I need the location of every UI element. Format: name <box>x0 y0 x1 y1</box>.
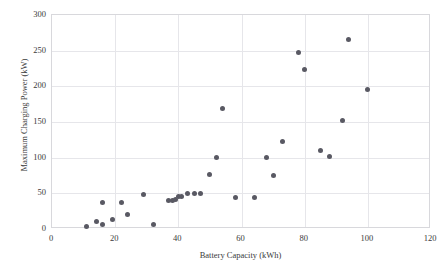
gridline-horizontal <box>52 193 429 194</box>
data-point <box>84 224 89 229</box>
x-axis-tick-labels: 020406080100120 <box>51 234 430 246</box>
data-point <box>302 67 307 72</box>
gridline-horizontal <box>52 122 429 123</box>
data-point <box>346 37 351 42</box>
data-point <box>185 191 190 196</box>
data-point <box>365 87 370 92</box>
data-point <box>192 191 197 196</box>
gridline-vertical <box>305 15 306 227</box>
data-point <box>119 200 124 205</box>
gridline-horizontal <box>52 158 429 159</box>
x-axis-tick-label: 100 <box>347 234 387 243</box>
y-axis-tick-label: 300 <box>4 10 46 19</box>
gridline-vertical <box>242 15 243 227</box>
x-axis-tick-label: 60 <box>221 234 261 243</box>
scatter-chart-figure: 050100150200250300 020406080100120 Batte… <box>0 0 446 268</box>
data-point <box>214 155 219 160</box>
data-point <box>100 222 105 227</box>
data-point <box>151 222 156 227</box>
data-point <box>280 139 285 144</box>
data-point <box>220 106 225 111</box>
gridline-vertical <box>368 15 369 227</box>
data-point <box>207 172 212 177</box>
gridline-vertical <box>115 15 116 227</box>
data-point <box>110 217 115 222</box>
data-point <box>252 195 257 200</box>
x-axis-tick-label: 20 <box>94 234 134 243</box>
plot-area <box>51 14 430 228</box>
x-axis-title: Battery Capacity (kWh) <box>51 250 430 260</box>
y-axis-tick-label: 0 <box>4 224 46 233</box>
data-point <box>296 50 301 55</box>
x-axis-tick-label: 80 <box>284 234 324 243</box>
gridline-horizontal <box>52 86 429 87</box>
x-axis-tick-label: 0 <box>31 234 71 243</box>
y-axis-title: Maximum Charging Power (kW) <box>19 25 29 205</box>
data-point <box>141 192 146 197</box>
gridline-horizontal <box>52 51 429 52</box>
data-point <box>94 219 99 224</box>
data-point <box>198 191 203 196</box>
data-point <box>125 212 130 217</box>
data-point <box>327 154 332 159</box>
data-point <box>318 148 323 153</box>
data-point <box>179 194 184 199</box>
chart-title <box>0 0 446 5</box>
data-point <box>233 195 238 200</box>
data-point <box>100 200 105 205</box>
data-point <box>271 173 276 178</box>
x-axis-tick-label: 40 <box>157 234 197 243</box>
x-axis-tick-label: 120 <box>410 234 446 243</box>
data-point <box>264 155 269 160</box>
